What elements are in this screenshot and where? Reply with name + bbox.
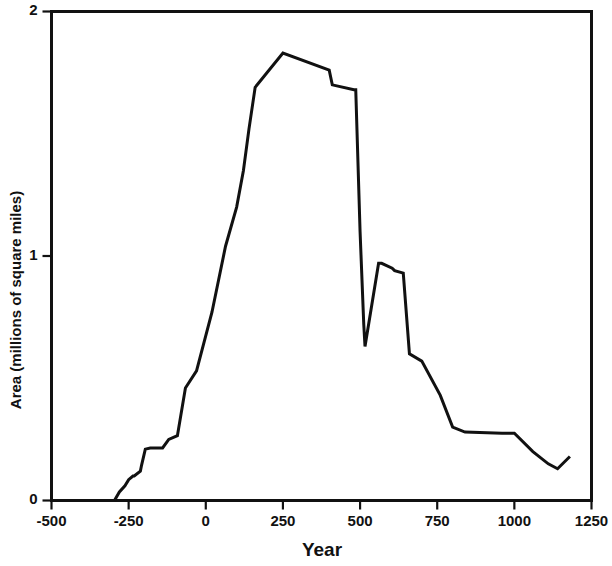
x-tick-label-0: 0 [202,512,210,529]
y-axis-tick-labels: 012 [29,1,37,507]
plot-frame [52,12,592,501]
x-axis-tick-labels: -500-250025050075010001250 [36,512,608,529]
x-tick-label-500: 500 [348,512,373,529]
chart-figure: -500-250025050075010001250 012 Year Area… [0,0,612,566]
x-tick-label--250: -250 [114,512,144,529]
x-axis-title: Year [302,539,343,560]
y-tick-label-0: 0 [29,490,37,507]
x-tick-label--500: -500 [36,512,66,529]
x-tick-label-1250: 1250 [575,512,608,529]
chart-canvas: -500-250025050075010001250 012 Year Area… [0,0,612,566]
x-tick-label-250: 250 [270,512,295,529]
y-axis-title: Area (millions of square miles) [7,191,24,409]
y-tick-label-2: 2 [29,1,37,18]
x-tick-label-750: 750 [425,512,450,529]
data-series-line [114,53,569,500]
x-tick-label-1000: 1000 [498,512,531,529]
y-tick-label-1: 1 [29,246,37,263]
